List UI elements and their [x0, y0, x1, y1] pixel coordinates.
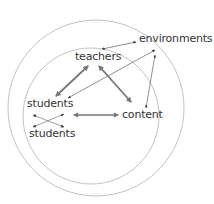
- arrow-teachers-environments: [102, 42, 136, 49]
- node-students-peer: students: [29, 127, 75, 140]
- arrow-content-environments: [146, 55, 155, 108]
- node-environments: environments: [139, 32, 212, 45]
- arrow-teachers-students: [56, 66, 88, 96]
- arrow-teachers-content: [99, 66, 131, 102]
- node-content: content: [122, 108, 163, 121]
- node-students: students: [27, 97, 73, 110]
- node-teachers: teachers: [75, 50, 121, 63]
